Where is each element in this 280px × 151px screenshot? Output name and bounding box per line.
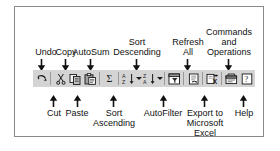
svg-text:?: ? <box>244 75 248 84</box>
refresh-all-button[interactable] <box>186 71 201 86</box>
callout-arrow-up-paste <box>73 94 82 107</box>
refresh-all-icon <box>188 73 200 85</box>
callout-label-sort-ascending: Sort Ascending <box>85 108 143 128</box>
callout-label-help: Help <box>227 108 261 118</box>
undo-icon <box>36 73 48 84</box>
export-excel-button[interactable]: X <box>205 71 220 86</box>
clipboard-paste-icon <box>84 73 97 85</box>
sort-descending-button[interactable]: Z A <box>142 71 163 86</box>
standard-toolbar: Σ A Z Z A <box>33 70 255 87</box>
callout-arrow-up-help <box>239 94 248 107</box>
sort-descending-dropdown-caret[interactable] <box>157 77 163 80</box>
sort-ascending-dropdown-caret[interactable] <box>136 77 142 80</box>
scissors-icon <box>55 73 67 85</box>
export-excel-icon: X <box>206 73 219 85</box>
paste-button[interactable] <box>83 71 98 86</box>
sort-za-icon: Z A <box>143 73 156 85</box>
callout-label-export-excel: Export to Microsoft Excel <box>178 108 232 138</box>
sigma-icon: Σ <box>107 74 113 84</box>
callout-arrow-up-sort-ascending <box>109 94 118 107</box>
callout-arrow-up-cut <box>49 94 58 107</box>
sort-ascending-button[interactable]: A Z <box>121 71 142 86</box>
callout-arrow-up-autofilter <box>159 94 168 107</box>
autofilter-button[interactable] <box>167 71 182 86</box>
cut-button[interactable] <box>53 71 68 86</box>
autosum-button[interactable]: Σ <box>102 71 117 86</box>
callout-arrow-up-export-excel <box>200 94 209 107</box>
help-button[interactable]: ? <box>239 71 254 86</box>
callout-label-commands-operations: Commands and Operations <box>196 27 262 57</box>
undo-button[interactable] <box>34 71 49 86</box>
commands-operations-button[interactable] <box>224 71 239 86</box>
svg-text:X: X <box>212 78 217 85</box>
copy-icon <box>69 73 82 85</box>
question-mark-icon: ? <box>241 73 253 85</box>
commands-operations-icon <box>225 73 238 85</box>
svg-text:Z: Z <box>122 79 125 85</box>
sort-az-icon: A Z <box>122 73 135 85</box>
funnel-filter-icon <box>168 73 181 85</box>
callout-label-sort-descending: Sort Descending <box>106 37 168 57</box>
svg-text:A: A <box>143 79 147 85</box>
toolbar-callout-figure: Undo Copy AutoSum Sort Descending Refres… <box>0 0 280 151</box>
copy-button[interactable] <box>68 71 83 86</box>
